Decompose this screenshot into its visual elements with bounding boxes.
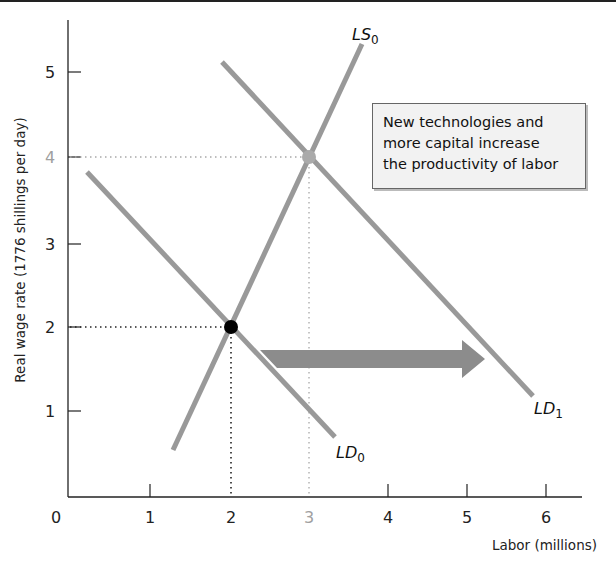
annotation-line-3: the productivity of labor (383, 154, 585, 175)
x-tick-label-6: 6 (541, 508, 551, 527)
x-ticks (150, 484, 546, 497)
x-tick-label-5: 5 (462, 508, 472, 527)
x-tick-label-4: 4 (383, 508, 393, 527)
guide-lines-initial (70, 327, 231, 496)
labor-market-chart: 1 2 3 4 5 0 1 2 3 4 5 6 Labor (millions)… (0, 0, 616, 561)
y-tick-label-1: 1 (45, 402, 55, 421)
y-tick-label-3: 3 (45, 235, 55, 254)
y-tick-label-5: 5 (45, 63, 55, 82)
ld0-label: LD0 (336, 443, 365, 465)
ls0-label: LS0 (352, 25, 379, 47)
y-tick-label-2: 2 (45, 318, 55, 337)
y-tick-label-4-highlighted: 4 (45, 148, 55, 167)
initial-equilibrium-point (224, 320, 238, 334)
y-ticks (68, 72, 81, 411)
x-tick-label-3-highlighted: 3 (304, 508, 314, 527)
ls0-curve (173, 44, 362, 450)
new-equilibrium-point (302, 150, 316, 164)
x-axis-title: Labor (millions) (492, 537, 597, 553)
ld1-label: LD1 (534, 399, 563, 421)
shift-arrow-icon (260, 340, 485, 378)
y-axis-title: Real wage rate (1776 shillings per day) (12, 117, 28, 382)
annotation-box: New technologies and more capital increa… (372, 103, 586, 189)
x-tick-label-1: 1 (145, 508, 155, 527)
annotation-line-1: New technologies and (383, 112, 585, 133)
annotation-line-2: more capital increase (383, 133, 585, 154)
x-tick-label-0: 0 (51, 508, 61, 527)
ld0-curve (87, 172, 335, 437)
x-tick-label-2: 2 (226, 508, 236, 527)
